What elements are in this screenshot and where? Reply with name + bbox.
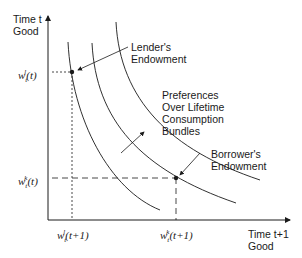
borrower-endowment-label: Borrower'sEndowment — [211, 148, 266, 172]
y-axis-title: Time tGood — [13, 13, 42, 37]
borrower-endowment-point — [174, 176, 178, 180]
indifference-curve-1 — [68, 42, 160, 210]
lender-endowment-point — [70, 70, 74, 74]
y-tick-borrower: wtk(t) — [18, 172, 38, 192]
indifference-diagram — [0, 0, 302, 258]
x-axis-title: Time t+1Good — [248, 228, 289, 252]
y-tick-lender: wtl(t) — [18, 66, 37, 86]
borrower-callout-arrow — [180, 153, 200, 175]
preference-direction-arrow — [121, 132, 144, 153]
x-tick-borrower: wtk(t+1) — [160, 226, 193, 246]
lender-endowment-label: Lender'sEndowment — [131, 41, 186, 65]
preferences-label: Preferences Over Lifetime Consumption Bu… — [162, 89, 224, 137]
lender-callout-arrow — [78, 47, 128, 70]
x-tick-lender: wtl(t+1) — [57, 226, 89, 246]
